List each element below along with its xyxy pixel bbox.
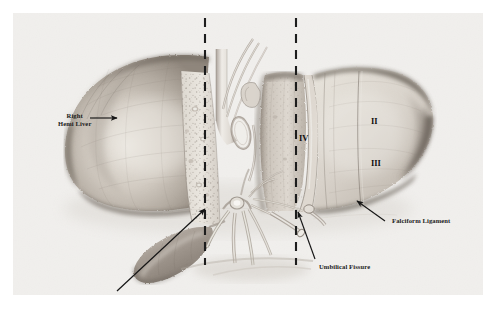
leader-umbilical-fissure — [298, 212, 315, 259]
leader-principle-plane — [117, 209, 205, 291]
figure-canvas: Right Hemi Liver Falciform Ligament Umbi… — [0, 0, 496, 318]
label-right-hemi-liver-line1: Right — [58, 112, 91, 120]
label-umbilical-fissure: Umbilical Fissure — [319, 263, 370, 271]
label-right-hemi-liver-line2: Hemi Liver — [58, 120, 91, 128]
leader-falciform-ligament — [357, 201, 385, 221]
label-falciform-ligament: Falciform Ligament — [392, 217, 450, 225]
label-right-hemi-liver: Right Hemi Liver — [58, 112, 91, 128]
illustration-plate: Right Hemi Liver Falciform Ligament Umbi… — [13, 13, 483, 295]
segment-label-ii: II — [371, 116, 378, 126]
annotation-overlay — [13, 13, 483, 295]
segment-label-iv: IV — [299, 133, 308, 143]
segment-label-iii: III — [371, 158, 381, 168]
